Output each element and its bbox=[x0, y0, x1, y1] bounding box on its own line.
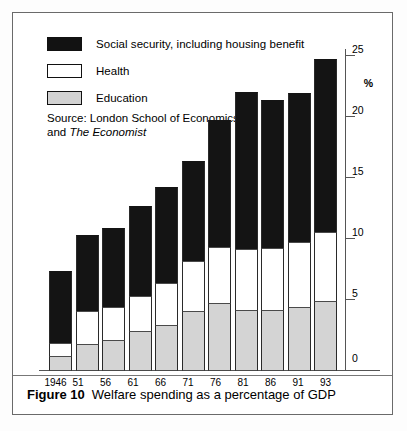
figure-caption-text: Welfare spending as a percentage of GDP bbox=[92, 387, 336, 402]
bar-segment-health bbox=[288, 242, 311, 307]
bar-1946 bbox=[49, 271, 72, 371]
bar-segment-health bbox=[76, 311, 99, 344]
bar-segment-health bbox=[182, 261, 205, 311]
y-tick-15 bbox=[346, 177, 355, 178]
bar-segment-education bbox=[155, 325, 178, 371]
figure-frame: Social security, including housing benef… bbox=[12, 12, 393, 415]
bar-segment-social-security bbox=[182, 161, 205, 261]
bar-segment-education bbox=[129, 331, 152, 371]
bar-segment-education bbox=[49, 356, 72, 371]
y-tick-label-20: 20 bbox=[352, 104, 376, 116]
bar-86 bbox=[261, 100, 284, 371]
bar-segment-social-security bbox=[49, 271, 72, 343]
bar-segment-health bbox=[155, 283, 178, 325]
bar-76 bbox=[208, 120, 231, 371]
bar-81 bbox=[235, 92, 258, 371]
bar-segment-health bbox=[235, 249, 258, 309]
figure-caption: Figure 10Welfare spending as a percentag… bbox=[27, 387, 336, 402]
y-tick-label-5: 5 bbox=[352, 287, 376, 299]
bar-segment-social-security bbox=[208, 120, 231, 247]
caption-divider bbox=[13, 375, 392, 376]
y-tick-5 bbox=[346, 299, 355, 300]
bar-66 bbox=[155, 187, 178, 371]
bar-segment-social-security bbox=[235, 92, 258, 249]
bar-segment-health bbox=[261, 248, 284, 309]
bar-61 bbox=[129, 206, 152, 371]
bar-segment-education bbox=[288, 307, 311, 371]
bar-segment-social-security bbox=[76, 235, 99, 311]
y-axis-unit-label: % bbox=[364, 77, 373, 89]
y-tick-25 bbox=[346, 55, 355, 56]
y-tick-label-25: 25 bbox=[352, 43, 376, 55]
bar-segment-social-security bbox=[155, 187, 178, 283]
bar-segment-health bbox=[208, 247, 231, 303]
y-tick-label-0: 0 bbox=[352, 352, 376, 364]
bar-segment-education bbox=[76, 344, 99, 371]
bar-segment-social-security bbox=[129, 206, 152, 296]
bar-segment-health bbox=[102, 307, 125, 340]
bar-segment-education bbox=[102, 340, 125, 371]
bar-segment-education bbox=[182, 311, 205, 371]
chart-plot-area: Social security, including housing benef… bbox=[37, 27, 382, 377]
bar-group bbox=[49, 51, 337, 371]
bar-segment-education bbox=[314, 301, 337, 371]
bar-91 bbox=[288, 93, 311, 371]
bar-93 bbox=[314, 59, 337, 371]
bar-segment-social-security bbox=[102, 228, 125, 307]
bar-segment-health bbox=[49, 343, 72, 356]
bar-segment-health bbox=[314, 232, 337, 301]
bar-segment-social-security bbox=[288, 93, 311, 241]
figure-number: Figure 10 bbox=[27, 387, 85, 402]
figure-container: Social security, including housing benef… bbox=[0, 0, 407, 431]
bar-segment-education bbox=[261, 310, 284, 371]
bar-segment-social-security bbox=[314, 59, 337, 232]
y-tick-10 bbox=[346, 238, 355, 239]
y-tick-label-10: 10 bbox=[352, 226, 376, 238]
bar-71 bbox=[182, 161, 205, 371]
bar-56 bbox=[102, 228, 125, 371]
bar-segment-social-security bbox=[261, 100, 284, 248]
bar-segment-health bbox=[129, 296, 152, 332]
y-tick-label-15: 15 bbox=[352, 165, 376, 177]
bar-51 bbox=[76, 235, 99, 371]
bar-segment-education bbox=[235, 310, 258, 371]
bar-segment-education bbox=[208, 303, 231, 371]
y-axis-line bbox=[345, 49, 346, 371]
y-tick-20 bbox=[346, 116, 355, 117]
